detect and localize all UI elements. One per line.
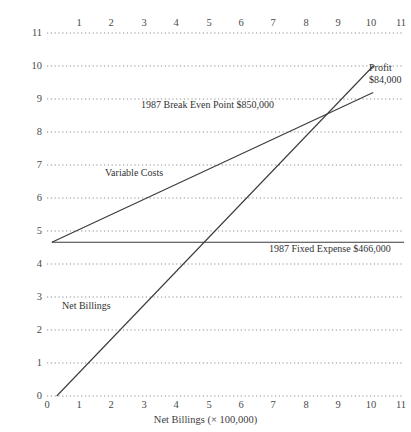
xtick-bottom-7: 7 [270, 400, 275, 411]
xtick-bottom-8: 8 [303, 400, 308, 411]
xtick-bottom-0: 0 [44, 400, 49, 411]
xtick-top-10: 10 [366, 18, 377, 29]
ytick-5: 5 [24, 226, 42, 237]
annotation-net-billings: Net Billings [62, 300, 111, 312]
ytick-8: 8 [24, 127, 42, 138]
xtick-bottom-4: 4 [173, 400, 178, 411]
ytick-7: 7 [24, 160, 42, 171]
xtick-bottom-1: 1 [76, 400, 81, 411]
xtick-top-6: 6 [238, 18, 243, 29]
chart-plot-area [0, 0, 411, 432]
xtick-top-1: 1 [76, 18, 81, 29]
series-variable-costs-line [52, 92, 373, 242]
xtick-bottom-11: 11 [396, 400, 406, 411]
xtick-bottom-5: 5 [206, 400, 211, 411]
annotation-variable-costs: Variable Costs [105, 167, 163, 179]
xtick-top-4: 4 [173, 18, 178, 29]
annotation-profit: Profit $84,000 [369, 62, 402, 85]
ytick-3: 3 [24, 292, 42, 303]
xtick-bottom-2: 2 [108, 400, 113, 411]
ytick-9: 9 [24, 94, 42, 105]
xtick-top-3: 3 [141, 18, 146, 29]
ytick-6: 6 [24, 193, 42, 204]
xtick-top-9: 9 [335, 18, 340, 29]
ytick-10: 10 [24, 61, 42, 72]
xtick-top-8: 8 [303, 18, 308, 29]
annotation-profit-label: Profit [369, 62, 402, 74]
ytick-0: 0 [24, 391, 42, 402]
annotation-profit-amount: $84,000 [369, 74, 402, 86]
ytick-4: 4 [24, 259, 42, 270]
annotation-fixed-expense: 1987 Fixed Expense $466,000 [269, 243, 391, 255]
xtick-bottom-6: 6 [238, 400, 243, 411]
ytick-2: 2 [24, 325, 42, 336]
x-axis-title: Net Billings (× 100,000) [0, 414, 411, 425]
horizontal-gridlines [47, 33, 404, 396]
xtick-top-11: 11 [396, 18, 406, 29]
xtick-bottom-9: 9 [335, 400, 340, 411]
ytick-11: 11 [24, 28, 42, 39]
xtick-top-2: 2 [108, 18, 113, 29]
break-even-chart: 1 2 3 4 5 6 7 8 9 10 11 0 1 2 3 4 5 6 7 … [0, 0, 411, 432]
ytick-1: 1 [24, 358, 42, 369]
xtick-top-5: 5 [206, 18, 211, 29]
xtick-top-7: 7 [270, 18, 275, 29]
annotation-break-even-point: 1987 Break Even Point $850,000 [141, 99, 274, 111]
xtick-bottom-10: 10 [366, 400, 377, 411]
xtick-bottom-3: 3 [141, 400, 146, 411]
